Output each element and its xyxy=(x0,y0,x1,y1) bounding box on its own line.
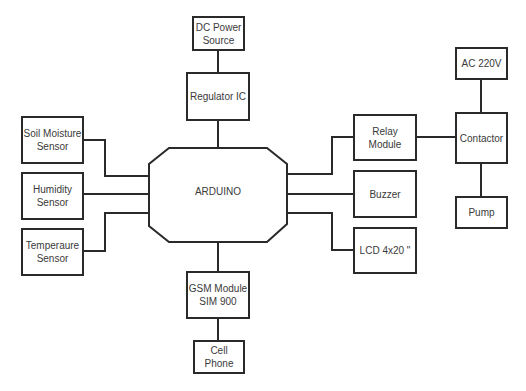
pump-label: Pump xyxy=(468,206,494,219)
humidity-sensor-label: Humidity Sensor xyxy=(33,183,72,209)
gsm-module-block: GSM Module SIM 900 xyxy=(186,271,250,319)
cell-phone-block: Cell Phone xyxy=(193,340,245,374)
regulator-ic-label: Regulator IC xyxy=(190,90,246,103)
ac-220v-block: AC 220V xyxy=(455,47,508,80)
soil-moisture-sensor-label: Soil Moisture Sensor xyxy=(24,127,82,153)
contactor-label: Contactor xyxy=(460,132,503,145)
wire-arduino-lcd xyxy=(287,213,353,250)
relay-module-label: Relay Module xyxy=(369,125,402,151)
buzzer-label: Buzzer xyxy=(369,188,400,201)
soil-moisture-sensor-block: Soil Moisture Sensor xyxy=(21,116,84,164)
wire-soil-arduino xyxy=(83,140,149,176)
buzzer-block: Buzzer xyxy=(353,170,417,218)
temperature-sensor-block: Temperaure Sensor xyxy=(21,228,84,276)
humidity-sensor-block: Humidity Sensor xyxy=(21,172,84,220)
lcd-block: LCD 4x20 " xyxy=(353,227,417,274)
gsm-module-label: GSM Module SIM 900 xyxy=(189,282,247,308)
wire-temperature-arduino xyxy=(83,213,149,251)
contactor-block: Contactor xyxy=(455,112,508,164)
lcd-label: LCD 4x20 " xyxy=(360,244,411,257)
wire-arduino-relay xyxy=(287,137,353,174)
relay-module-block: Relay Module xyxy=(353,114,417,161)
temperature-sensor-label: Temperaure Sensor xyxy=(26,239,79,265)
ac-220v-label: AC 220V xyxy=(461,57,501,70)
arduino-label: ARDUINO xyxy=(149,186,287,197)
pump-block: Pump xyxy=(455,196,508,229)
dc-power-source-block: DC Power Source xyxy=(192,16,245,51)
regulator-ic-block: Regulator IC xyxy=(186,72,250,121)
cell-phone-label: Cell Phone xyxy=(195,344,243,370)
dc-power-source-label: DC Power Source xyxy=(196,21,242,47)
